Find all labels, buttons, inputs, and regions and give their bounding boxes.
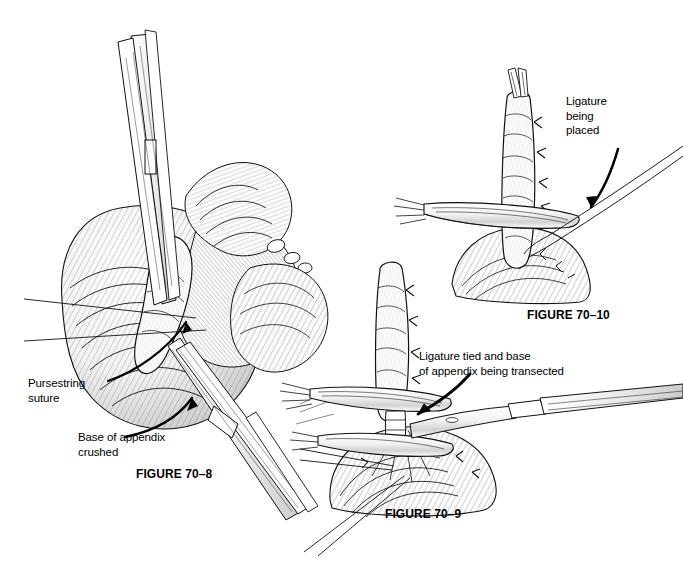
surgical-illustration-plate [0,0,683,563]
label-base-of-appendix-crushed: Base of appendix crushed [78,430,165,459]
illustration-page: Pursestring suture Base of appendix crus… [0,0,683,563]
label-pursestring-suture: Pursestring suture [28,376,85,405]
label-ligature-being-placed: Ligature being placed [566,94,607,138]
caption-figure-70-10: FIGURE 70–10 [527,307,610,322]
caption-figure-70-8: FIGURE 70–8 [136,466,212,481]
label-ligature-tied-and-transected: Ligature tied and base of appendix being… [419,349,564,378]
caption-figure-70-9: FIGURE 70–9 [385,506,461,521]
